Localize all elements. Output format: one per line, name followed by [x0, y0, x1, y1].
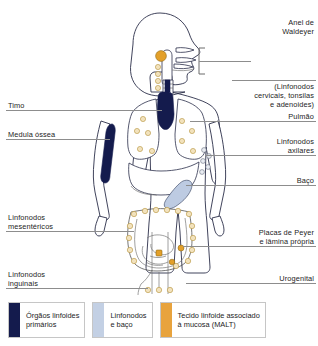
legend-item-linfonodos-e-baco: Linfonodos e baço: [92, 302, 152, 338]
tonsil-adenoid-node: [156, 51, 167, 62]
leader-pulmao: [190, 121, 316, 122]
leader-timo: [6, 110, 162, 111]
legend-swatch-nodes-spleen: [93, 303, 104, 337]
label-placas-de-peyer: Placas de Peyer e lâmina própria: [226, 228, 314, 246]
leader-urogenital: [186, 283, 316, 284]
label-linfonodos-inguinais: Linfonodos inguinais: [8, 270, 104, 288]
legend-item-orgaos-linfoides-primarios: Órgãos linfoides primários: [8, 302, 85, 338]
leader-waldeyer: [199, 61, 251, 62]
leader-medula-ossea: [6, 139, 110, 140]
label-urogenital: Urogenital: [236, 274, 314, 283]
label-anel-de-waldeyer: Anel de Waldeyer: [236, 18, 314, 36]
diagram-canvas: Anel de Waldeyer (Linfonodos cervicais, …: [0, 0, 318, 346]
label-baco: Baço: [236, 176, 314, 185]
leader-baco: [186, 185, 316, 186]
legend-item-malt: Tecido linfoide associado à mucosa (MALT…: [160, 302, 266, 338]
legend-label-orgaos-linfoides-primarios: Órgãos linfoides primários: [20, 303, 84, 337]
leader-waldeyer-sub: [232, 80, 316, 81]
label-timo: Timo: [8, 101, 104, 110]
label-anel-de-waldeyer-sub: (Linfonodos cervicais, tonsilas e adenoi…: [226, 82, 314, 109]
inguinal-lymph-nodes: [145, 287, 172, 292]
thymus-neck-extension: [165, 80, 170, 92]
label-linfonodos-mesentericos: Linfonodos mesentéricos: [8, 213, 104, 231]
legend-label-linfonodos-e-baco: Linfonodos e baço: [104, 303, 151, 337]
label-linfonodos-axilares: Linfonodos axilares: [236, 137, 314, 155]
legend-swatch-primary-lymphoid: [9, 303, 20, 337]
right-hand-outline: [212, 216, 224, 236]
legend: Órgãos linfoides primários Linfonodos e …: [8, 302, 266, 338]
legend-swatch-malt: [161, 303, 172, 337]
label-medula-ossea: Medula óssea: [8, 130, 104, 139]
label-pulmao: Pulmão: [236, 112, 314, 121]
human-body-diagram: [0, 0, 318, 346]
legend-label-malt: Tecido linfoide associado à mucosa (MALT…: [172, 303, 265, 337]
